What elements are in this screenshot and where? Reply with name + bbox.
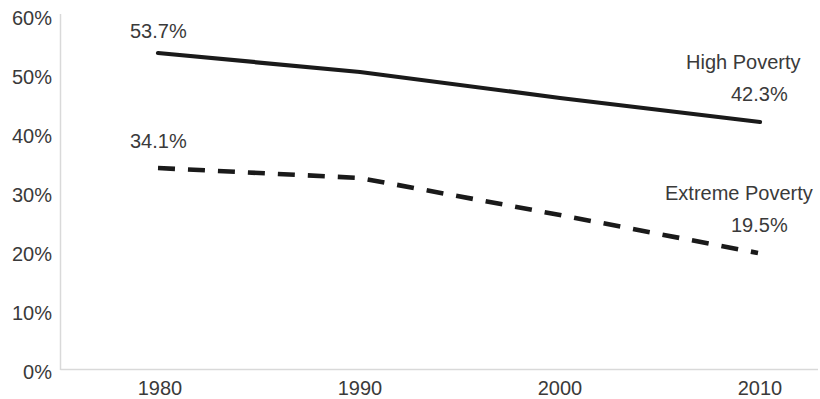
x-tick-label-1990: 1990 [310,378,410,398]
y-tick-label-20: 20% [0,244,52,264]
data-label-high-poverty-1980: 53.7% [130,21,187,41]
y-tick-label-40: 40% [0,126,52,146]
series-label-high-poverty: High Poverty [686,52,801,72]
series-line-high-poverty [158,53,760,122]
x-tick-label-2000: 2000 [510,378,610,398]
series-line-extreme-poverty [158,168,758,253]
y-tick-label-50: 50% [0,67,52,87]
poverty-trend-chart: 60% 50% 40% 30% 20% 10% 0% 1980 1990 200… [0,0,820,399]
data-label-extreme-poverty-1980: 34.1% [130,131,187,151]
data-label-extreme-poverty-2010: 19.5% [731,215,788,235]
y-tick-label-10: 10% [0,303,52,323]
x-tick-label-2010: 2010 [710,378,810,398]
y-tick-label-30: 30% [0,185,52,205]
series-label-extreme-poverty: Extreme Poverty [665,183,813,203]
y-tick-label-60: 60% [0,8,52,28]
x-tick-label-1980: 1980 [110,378,210,398]
data-label-high-poverty-2010: 42.3% [731,84,788,104]
y-tick-label-0: 0% [0,362,52,382]
